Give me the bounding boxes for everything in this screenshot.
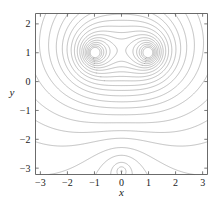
contour-path [80, 31, 163, 70]
x-tick-label: −2 [62, 177, 73, 188]
contour-path [36, 120, 208, 132]
y-tick-label: 1 [26, 47, 31, 58]
contour-path [67, 14, 176, 86]
axes-frame [36, 14, 208, 175]
plot-canvas: −3−2−10123 −3−2−1012 x y [0, 0, 222, 207]
y-tick-label: −3 [20, 163, 31, 174]
y-axis-label: y [9, 86, 15, 98]
x-tick-label: 2 [173, 177, 178, 188]
x-tick-label: −1 [89, 177, 100, 188]
contour-lines-group [36, 14, 208, 175]
x-tick-label: −3 [35, 177, 46, 188]
contour-path [62, 14, 180, 91]
tick-marks-group [36, 14, 208, 175]
y-tick-label: −2 [20, 134, 31, 145]
contour-plot-figure: −3−2−10123 −3−2−1012 x y [0, 0, 222, 207]
y-tick-label: −1 [20, 105, 31, 116]
y-tick-label: 0 [26, 76, 31, 87]
contour-path [49, 14, 195, 102]
x-axis-label: x [118, 186, 124, 198]
x-tick-label: 1 [146, 177, 151, 188]
contour-path [90, 47, 100, 57]
contour-path [56, 14, 186, 96]
contour-path [126, 38, 160, 66]
x-tick-label: 3 [200, 177, 205, 188]
contour-path [36, 138, 208, 146]
contour-path [84, 38, 118, 66]
y-tick-labels-group: −3−2−1012 [20, 18, 31, 173]
contour-path [82, 35, 161, 68]
plot-border [36, 14, 208, 175]
contour-path [143, 47, 153, 57]
y-tick-label: 2 [26, 18, 31, 29]
